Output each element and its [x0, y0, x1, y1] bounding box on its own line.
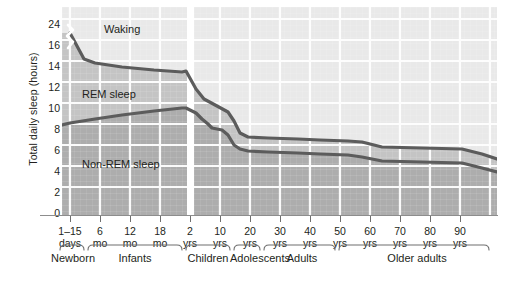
x-tick-mark-12 [430, 216, 431, 222]
group-label-newborn: Newborn [38, 252, 108, 264]
x-tick-mark-2 [130, 216, 131, 222]
x-tick-label-line1: 20 [244, 225, 256, 237]
x-tick-mark-11 [400, 216, 401, 222]
x-tick-label-line1: 40 [304, 225, 316, 237]
y-tick-6: 6 [54, 145, 60, 155]
x-tick-label-line1: 6 [97, 225, 103, 237]
x-tick-label-line1: 18 [154, 225, 166, 237]
x-tick-label-line2: yrs [438, 238, 482, 250]
x-tick-mark-5 [220, 216, 221, 222]
y-tick-2: 2 [54, 187, 60, 197]
x-tick-mark-10 [370, 216, 371, 222]
series-label-non-rem-sleep: Non-REM sleep [82, 158, 160, 170]
series-label-waking: Waking [104, 23, 140, 35]
y-tick-14: 14 [48, 61, 60, 71]
x-tick-label-line1: 50 [334, 225, 346, 237]
x-tick-label-line1: 80 [424, 225, 436, 237]
sleep-across-lifespan-chart: Total daily sleep (hours) 24 16 14 12 10… [0, 0, 522, 283]
x-tick-mark-13 [460, 216, 461, 222]
y-tick-24: 24 [48, 19, 60, 29]
x-tick-label-90yrs: 90 yrs [438, 226, 482, 249]
series-label-rem-sleep: REM sleep [82, 88, 136, 100]
x-tick-label-line1: 2 [187, 225, 193, 237]
y-tick-12: 12 [48, 82, 60, 92]
plot-area: Waking REM sleep Non-REM sleep [62, 7, 497, 215]
x-tick-mark-9 [340, 216, 341, 222]
x-tick-mark-8 [310, 216, 311, 222]
y-tick-10: 10 [48, 103, 60, 113]
x-tick-label-line1: 90 [454, 225, 466, 237]
x-tick-label-line1: 60 [364, 225, 376, 237]
x-tick-mark-3 [160, 216, 161, 222]
y-axis-tick-labels: 24 16 14 12 10 8 6 4 2 0 [36, 0, 60, 222]
y-tick-4: 4 [54, 166, 60, 176]
x-tick-label-line1: 10 [214, 225, 226, 237]
x-tick-mark-1 [100, 216, 101, 222]
x-tick-label-line1: 30 [274, 225, 286, 237]
x-tick-mark-4 [190, 216, 191, 222]
x-tick-mark-0 [70, 216, 71, 222]
y-tick-8: 8 [54, 124, 60, 134]
group-label-infants: Infants [100, 252, 170, 264]
x-tick-label-line1: 70 [394, 225, 406, 237]
x-tick-mark-6 [250, 216, 251, 222]
group-label-adults: Adults [267, 252, 337, 264]
group-label-older-adults: Older adults [377, 252, 457, 264]
y-tick-0: 0 [54, 208, 60, 218]
y-tick-16: 16 [48, 40, 60, 50]
x-tick-mark-7 [280, 216, 281, 222]
x-tick-label-line1: 12 [124, 225, 136, 237]
